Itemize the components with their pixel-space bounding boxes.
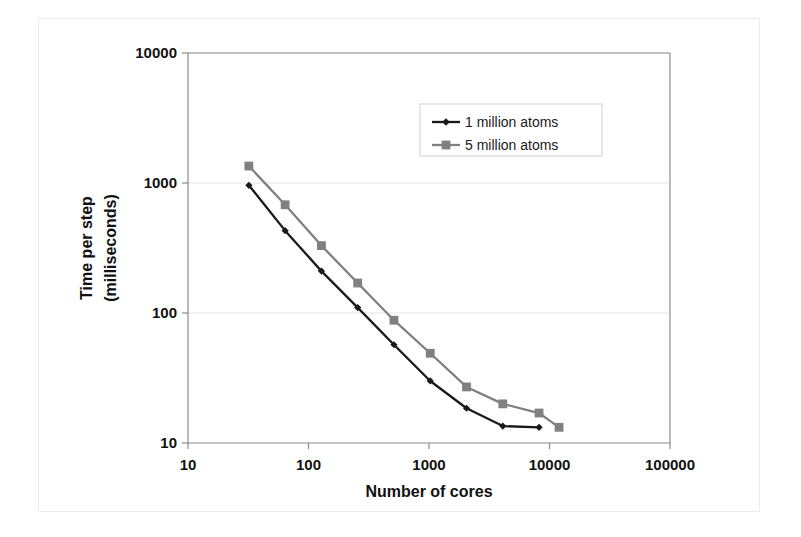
- series-line: [249, 185, 539, 427]
- y-tick-label: 100: [152, 304, 177, 321]
- legend-label: 5 million atoms: [465, 137, 558, 153]
- data-point: [535, 409, 544, 418]
- y-tick-label: 1000: [144, 174, 177, 191]
- x-tick-label: 1000: [412, 456, 445, 473]
- figure-canvas: 10100100010000 10100100010000100000 Numb…: [0, 0, 801, 537]
- data-point: [281, 200, 290, 209]
- data-point: [426, 349, 435, 358]
- chart-legend: 1 million atoms5 million atoms: [420, 104, 602, 156]
- x-axis-ticks: 10100100010000100000: [180, 443, 695, 473]
- legend-label: 1 million atoms: [465, 114, 558, 130]
- data-point: [555, 423, 564, 432]
- y-axis-ticks: 10100100010000: [135, 44, 188, 451]
- data-point: [462, 383, 471, 392]
- data-point: [535, 424, 542, 431]
- series-2: [244, 162, 563, 432]
- x-tick-label: 100: [296, 456, 321, 473]
- data-point: [499, 422, 506, 429]
- scaling-chart: 10100100010000 10100100010000100000 Numb…: [0, 0, 801, 537]
- x-tick-label: 10000: [529, 456, 571, 473]
- data-point: [498, 399, 507, 408]
- x-axis-title: Number of cores: [365, 483, 492, 500]
- data-point: [390, 316, 399, 325]
- x-tick-label: 100000: [645, 456, 695, 473]
- y-tick-label: 10: [160, 434, 177, 451]
- y-axis-title-line1: Time per step: [78, 196, 95, 300]
- y-axis-title-line2: (milliseconds): [102, 194, 119, 302]
- legend-swatch-marker: [442, 141, 451, 150]
- gridlines: [188, 53, 670, 313]
- data-point: [317, 241, 326, 250]
- x-tick-label: 10: [180, 456, 197, 473]
- y-tick-label: 10000: [135, 44, 177, 61]
- data-point: [353, 279, 362, 288]
- data-point: [244, 162, 253, 171]
- series-group: [244, 162, 563, 432]
- series-line: [249, 166, 559, 427]
- series-1: [245, 182, 542, 431]
